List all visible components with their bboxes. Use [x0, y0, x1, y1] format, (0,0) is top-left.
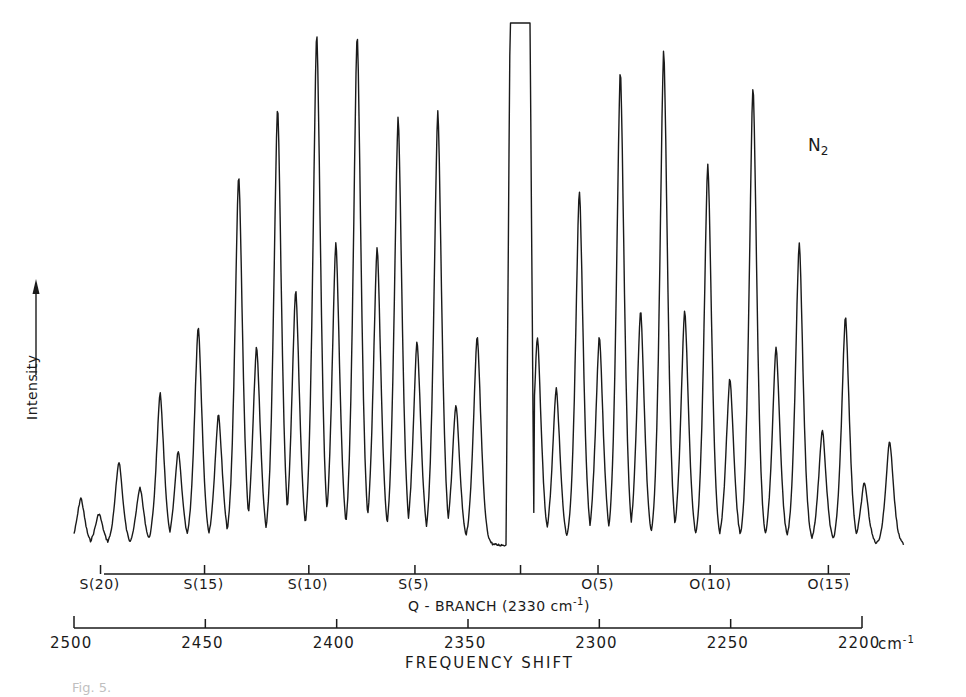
figure-caption: Fig. 5.	[72, 680, 111, 695]
frequency-tick-label: 2500	[50, 634, 92, 652]
y-axis-label: Intensity	[24, 355, 40, 420]
branch-tick-label: S(20)	[80, 576, 120, 592]
spectrum-trace	[74, 23, 904, 546]
q-branch-label: Q - BRANCH (2330 cm-1)	[408, 596, 590, 614]
branch-tick-label: S(10)	[288, 576, 328, 592]
branch-tick-label: O(5)	[581, 576, 614, 592]
branch-tick-label: O(10)	[689, 576, 731, 592]
branch-tick-label: O(15)	[807, 576, 849, 592]
x-axis-title: FREQUENCY SHIFT	[405, 654, 574, 672]
frequency-tick-label: 2450	[181, 634, 223, 652]
raman-spectrum-line	[74, 23, 904, 546]
spectrum-chart	[0, 0, 966, 697]
frequency-tick-label: 2250	[707, 634, 749, 652]
branch-axis	[101, 565, 850, 574]
frequency-tick-label: 2300	[575, 634, 617, 652]
frequency-axis	[74, 616, 862, 628]
branch-tick-label: S(5)	[398, 576, 429, 592]
frequency-tick-label: 2400	[313, 634, 355, 652]
x-unit-label: 2200 cm-1	[830, 634, 915, 653]
frequency-tick-label: 2350	[444, 634, 486, 652]
branch-tick-label: S(15)	[184, 576, 224, 592]
species-label: N2	[808, 135, 828, 158]
